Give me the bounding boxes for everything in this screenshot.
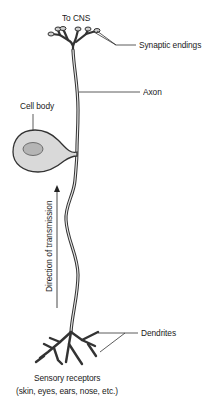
label-direction-of-transmission: Direction of transmission — [43, 200, 54, 292]
axon — [66, 50, 78, 332]
label-sensory-receptors: Sensory receptors — [34, 372, 100, 383]
neuron-diagram — [0, 0, 214, 401]
arrow-up-icon — [54, 185, 60, 192]
dendrites — [36, 332, 98, 364]
cell-body — [13, 130, 77, 172]
label-receptor-examples: (skin, eyes, ears, nose, etc.) — [16, 385, 118, 396]
label-synaptic-endings: Synaptic endings — [139, 39, 201, 50]
nucleus — [23, 143, 43, 156]
label-axon: Axon — [143, 86, 162, 97]
synaptic-leader — [94, 32, 136, 45]
label-to-cns: To CNS — [62, 12, 90, 23]
label-dendrites: Dendrites — [141, 327, 176, 338]
label-cell-body: Cell body — [20, 100, 54, 111]
direction-arrow — [54, 185, 60, 308]
leader-lines — [33, 31, 140, 352]
synaptic-endings — [52, 29, 96, 52]
